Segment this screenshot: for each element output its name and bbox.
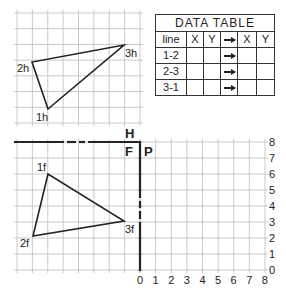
y-tick-label: 8: [269, 136, 275, 148]
header-y: Y: [204, 32, 221, 48]
cell-y-transformed[interactable]: [257, 64, 275, 80]
point-label-3f: 3f: [125, 223, 135, 235]
x-tick-label: 0: [137, 274, 143, 286]
profile-view-grid: [137, 139, 268, 273]
table-row: 2-3: [156, 64, 275, 80]
point-label-2f: 2f: [20, 237, 30, 249]
cell-arrow: [221, 64, 238, 80]
x-tick-label: 1: [153, 274, 159, 286]
fold-label-p: P: [144, 144, 153, 159]
y-tick-label: 3: [269, 216, 275, 228]
cell-arrow: [221, 48, 238, 64]
cell-x[interactable]: [187, 80, 204, 96]
frontal-view-grid: [14, 139, 143, 273]
cell-y[interactable]: [204, 48, 221, 64]
y-tick-label: 2: [269, 232, 275, 244]
x-tick-label: 5: [215, 274, 221, 286]
x-tick-label: 4: [199, 274, 205, 286]
fold-label-f: F: [125, 144, 133, 159]
cell-line: 1-2: [156, 48, 187, 64]
fold-label-h: H: [125, 126, 134, 141]
x-tick-label: 2: [168, 274, 174, 286]
cell-y-transformed[interactable]: [257, 80, 275, 96]
point-label-3h: 3h: [125, 47, 137, 59]
y-tick-label: 0: [269, 264, 275, 276]
data-table-title: DATA TABLE: [156, 15, 275, 32]
cell-line: 2-3: [156, 64, 187, 80]
y-tick-label: 1: [269, 248, 275, 260]
cell-y[interactable]: [204, 80, 221, 96]
arrow-right-icon: [224, 87, 235, 89]
point-label-1h: 1h: [36, 111, 48, 123]
cell-x[interactable]: [187, 64, 204, 80]
cell-x-transformed[interactable]: [238, 80, 257, 96]
header-x-transformed: X: [238, 32, 257, 48]
cell-y-transformed[interactable]: [257, 48, 275, 64]
table-row: 1-2: [156, 48, 275, 64]
header-arrow: [221, 32, 238, 48]
x-tick-label: 8: [262, 274, 268, 286]
arrow-right-icon: [224, 71, 235, 73]
cell-arrow: [221, 80, 238, 96]
y-tick-label: 6: [269, 168, 275, 180]
header-x: X: [187, 32, 204, 48]
arrow-right-icon: [224, 39, 235, 41]
table-row: 3-1: [156, 80, 275, 96]
cell-x-transformed[interactable]: [238, 48, 257, 64]
y-tick-label: 4: [269, 200, 275, 212]
cell-line: 3-1: [156, 80, 187, 96]
profile-y-axis-labels: 012345678: [269, 136, 275, 276]
cell-x[interactable]: [187, 48, 204, 64]
point-label-1f: 1f: [37, 161, 47, 173]
x-tick-label: 7: [246, 274, 252, 286]
cell-y[interactable]: [204, 64, 221, 80]
header-y-transformed: Y: [257, 32, 275, 48]
arrow-right-icon: [224, 55, 235, 57]
profile-x-axis-labels: 012345678: [137, 274, 268, 286]
point-label-2h: 2h: [17, 62, 29, 74]
y-tick-label: 7: [269, 152, 275, 164]
header-line: line: [156, 32, 187, 48]
x-tick-label: 3: [184, 274, 190, 286]
x-tick-label: 6: [231, 274, 237, 286]
cell-x-transformed[interactable]: [238, 64, 257, 80]
data-table: DATA TABLE line X Y X Y 1-2 2-3 3-1: [155, 14, 275, 96]
horizontal-view-triangle: [32, 45, 124, 109]
y-tick-label: 5: [269, 184, 275, 196]
